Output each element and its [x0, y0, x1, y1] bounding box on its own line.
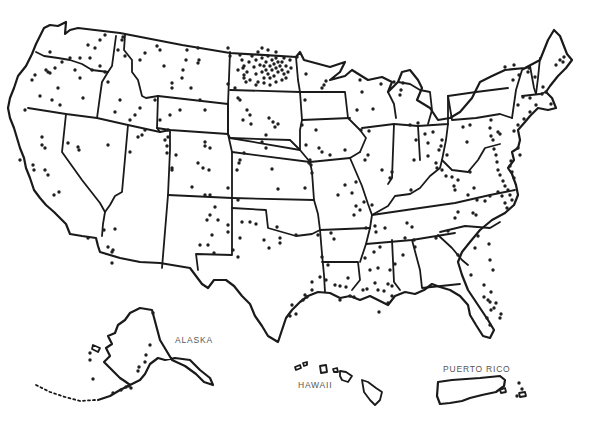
location-dot [282, 56, 285, 59]
location-dot [294, 312, 297, 315]
location-dot [86, 43, 89, 46]
location-dot [326, 263, 329, 266]
location-dot [346, 276, 349, 279]
location-dot [275, 225, 278, 228]
location-dot [170, 86, 173, 89]
location-dot [68, 56, 71, 59]
location-dot [378, 245, 381, 248]
location-dot [482, 295, 485, 298]
location-dot [308, 158, 311, 161]
location-dot [151, 311, 154, 314]
location-dot [245, 108, 248, 111]
location-dot [361, 288, 364, 291]
location-dot [294, 233, 297, 236]
location-dot [57, 190, 60, 193]
location-dot [496, 190, 499, 193]
location-dot [274, 80, 277, 83]
puerto-rico-label: PUERTO RICO [443, 364, 511, 374]
location-dot [316, 233, 319, 236]
location-dot [106, 80, 109, 83]
location-dot [226, 186, 229, 189]
location-dot [473, 246, 476, 249]
location-dot [267, 246, 270, 249]
location-dot [254, 222, 257, 225]
location-dot [363, 158, 366, 161]
location-dot [242, 151, 245, 154]
location-dot [408, 123, 411, 126]
location-dot [482, 283, 485, 286]
location-dot [52, 193, 55, 196]
location-dot [121, 35, 124, 38]
location-dot [310, 171, 313, 174]
location-dot [386, 301, 389, 304]
location-dot [90, 68, 93, 71]
location-dot [124, 385, 127, 388]
location-dot [488, 300, 491, 303]
location-dot [231, 248, 234, 251]
location-dot [163, 138, 166, 141]
location-dot [247, 60, 250, 63]
location-dot [392, 80, 395, 83]
location-dot [517, 73, 520, 76]
location-dot [352, 213, 355, 216]
location-dot [483, 199, 486, 202]
location-dot [233, 86, 236, 89]
location-dot [439, 144, 442, 147]
location-dot [338, 284, 341, 287]
location-dot [527, 66, 530, 69]
location-dot [248, 220, 251, 223]
location-dot [240, 58, 243, 61]
location-dot [398, 93, 401, 96]
location-dot [444, 174, 447, 177]
location-dot [264, 133, 267, 136]
location-dot [276, 122, 279, 125]
location-dot [40, 143, 43, 146]
location-dot [426, 141, 429, 144]
location-dot [244, 80, 247, 83]
location-dot [354, 204, 357, 207]
location-dot [254, 58, 257, 61]
location-dot [488, 126, 491, 129]
location-dot [413, 245, 416, 248]
location-dot [266, 54, 269, 57]
location-dot [270, 167, 273, 170]
location-dot [274, 56, 277, 59]
location-dot [492, 306, 495, 309]
location-dot [174, 153, 177, 156]
location-dot [103, 33, 106, 36]
location-dot [295, 55, 298, 58]
location-dot [278, 64, 281, 67]
location-dot [288, 58, 291, 61]
location-dot [207, 168, 210, 171]
location-dot [284, 64, 287, 67]
location-dot [196, 161, 199, 164]
location-dot [320, 86, 323, 89]
hawaii-label: HAWAII [298, 380, 332, 390]
location-dot [374, 230, 377, 233]
location-dot [272, 74, 275, 77]
location-dot [365, 287, 368, 290]
location-dot [303, 186, 306, 189]
location-dot [226, 223, 229, 226]
location-dot [488, 323, 491, 326]
location-dot [226, 82, 229, 85]
aleutian-chain [36, 385, 95, 401]
location-dot [236, 255, 239, 258]
location-dot [456, 253, 459, 256]
location-dot [33, 73, 36, 76]
location-dot [245, 70, 248, 73]
location-dot [380, 168, 383, 171]
location-dot [242, 76, 245, 79]
location-dot [158, 118, 161, 121]
location-dot [485, 316, 488, 319]
location-dot [366, 153, 369, 156]
location-dot [528, 110, 531, 113]
location-dot [181, 68, 184, 71]
location-dot [332, 237, 335, 240]
location-dot [143, 360, 146, 363]
location-dot [390, 294, 393, 297]
location-dot [40, 135, 43, 138]
location-dot [348, 294, 351, 297]
location-dot [38, 94, 41, 97]
location-dot [256, 80, 259, 83]
